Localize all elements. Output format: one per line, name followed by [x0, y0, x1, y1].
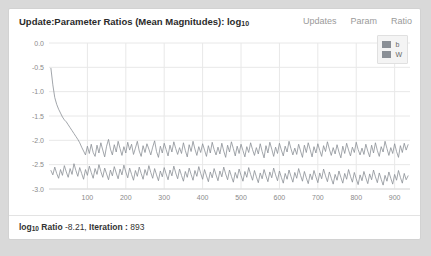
tab-ratio[interactable]: Ratio	[391, 16, 412, 26]
status-text: log10 Ratio -8.21, Iteration : 893	[19, 222, 144, 232]
status-iteration-value: 893	[130, 222, 144, 232]
x-axis-tick-label: 700	[312, 194, 324, 201]
x-axis-tick-label: 900	[389, 194, 401, 201]
x-axis-tick-label: 200	[120, 194, 132, 201]
y-axis-tick-label: -2.5	[32, 161, 44, 168]
tab-bar: Updates Param Ratio	[303, 16, 412, 26]
card-footer: log10 Ratio -8.21, Iteration : 893	[9, 215, 420, 239]
chart-title-text: Update:Parameter Ratios (Mean Magnitudes…	[19, 16, 241, 27]
x-axis-tick-label: 100	[82, 194, 94, 201]
series-line-b	[51, 68, 408, 158]
status-log-subscript: 10	[32, 225, 39, 232]
chart-legend: b W	[377, 35, 408, 64]
x-axis-tick-label: 300	[158, 194, 170, 201]
y-axis-tick-label: -0.5	[32, 64, 44, 71]
y-axis-tick-label: -1.0	[32, 88, 44, 95]
y-axis-tick-label: -2.0	[32, 137, 44, 144]
chart-title-subscript: 10	[241, 20, 249, 27]
legend-label-w: W	[395, 50, 402, 59]
status-log-prefix: log10	[19, 222, 39, 232]
y-axis-tick-label: 0.0	[34, 40, 44, 47]
line-chart-svg: 0.0-0.5-1.0-1.5-2.0-2.5-3.01002003004005…	[9, 35, 420, 211]
x-axis-tick-label: 600	[274, 194, 286, 201]
y-axis-tick-label: -3.0	[32, 186, 44, 193]
status-ratio-value: -8.21	[65, 222, 84, 232]
x-axis-tick-label: 800	[350, 194, 362, 201]
series-line-w	[51, 164, 408, 185]
tab-param[interactable]: Param	[350, 16, 377, 26]
legend-label-b: b	[395, 40, 399, 49]
page-title: Update:Parameter Ratios (Mean Magnitudes…	[19, 16, 249, 27]
tab-updates[interactable]: Updates	[303, 16, 337, 26]
card-header: Update:Parameter Ratios (Mean Magnitudes…	[9, 9, 420, 35]
legend-swatch-w	[382, 51, 391, 58]
y-axis-tick-label: -1.5	[32, 113, 44, 120]
status-separator: ,	[84, 222, 86, 232]
legend-swatch-b	[382, 41, 391, 48]
status-log-label: log	[19, 222, 32, 232]
status-iteration-label: Iteration :	[89, 222, 128, 232]
x-axis-tick-label: 500	[235, 194, 247, 201]
status-ratio-label: Ratio	[41, 222, 62, 232]
legend-item-b: b	[382, 40, 402, 49]
chart-card: Update:Parameter Ratios (Mean Magnitudes…	[8, 8, 421, 240]
plot-area: 0.0-0.5-1.0-1.5-2.0-2.5-3.01002003004005…	[9, 35, 420, 211]
legend-item-w: W	[382, 50, 402, 59]
x-axis-tick-label: 400	[197, 194, 209, 201]
